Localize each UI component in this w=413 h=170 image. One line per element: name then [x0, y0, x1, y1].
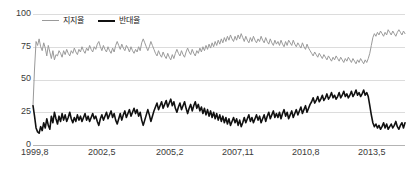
- line-chart: 100 75 50 25 0 지지율 반대율 1999,8 2002,5 200…: [0, 0, 413, 170]
- y-axis-tick-100: 100: [5, 9, 31, 18]
- series-lines: [33, 14, 405, 145]
- x-axis: 1999,8 2002,5 2005,2 2007,11 2010,8 2013…: [0, 147, 413, 161]
- legend-label-oppose: 반대율: [119, 16, 140, 25]
- series-line-support: [33, 30, 405, 106]
- x-axis-tick-3: 2007,11: [222, 147, 254, 157]
- legend-line-icon-oppose: [98, 20, 115, 22]
- x-axis-tick-2: 2005,2: [156, 147, 184, 157]
- x-axis-tick-1: 2002,5: [88, 147, 116, 157]
- x-axis-tick-0: 1999,8: [21, 147, 49, 157]
- legend-line-icon-support: [42, 20, 59, 21]
- x-axis-tick-5: 2013,5: [358, 147, 386, 157]
- y-axis: 100 75 50 25 0: [0, 0, 31, 170]
- series-line-oppose: [33, 90, 405, 133]
- legend-label-support: 지지율: [63, 16, 84, 25]
- plot-area: [33, 14, 405, 145]
- axis-baseline: [33, 145, 405, 146]
- y-axis-tick-50: 50: [5, 74, 31, 83]
- x-axis-tick-4: 2010,8: [292, 147, 320, 157]
- legend-item-oppose: 반대율: [98, 16, 140, 25]
- legend-item-support: 지지율: [42, 16, 84, 25]
- y-axis-tick-75: 75: [5, 42, 31, 51]
- legend: 지지율 반대율: [42, 16, 140, 25]
- y-axis-tick-25: 25: [5, 107, 31, 116]
